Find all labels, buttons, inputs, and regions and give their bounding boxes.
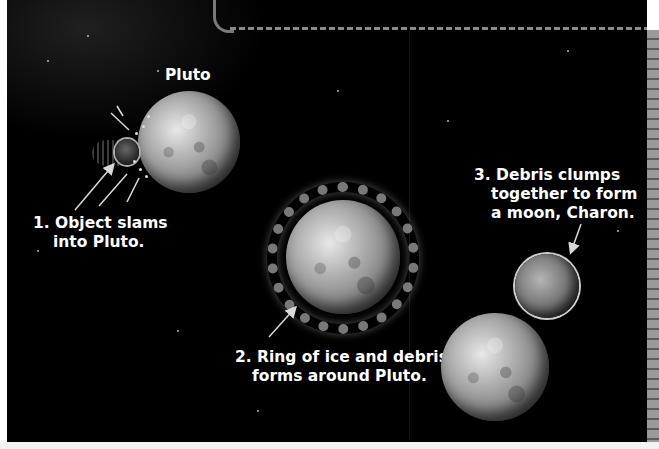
- space-illustration: Pluto 1. Object slams into Pluto. 2. Rin…: [7, 0, 647, 442]
- pointer-arrows: [7, 0, 647, 442]
- page-bottom-margin: [0, 442, 659, 449]
- page-edge-strip: [647, 30, 659, 442]
